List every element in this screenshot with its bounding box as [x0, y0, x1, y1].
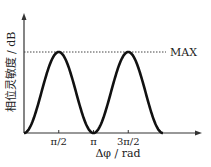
axes: π/2π3π/2	[22, 13, 203, 147]
sensitivity-curve	[24, 52, 163, 133]
y-axis-label: 相位灵敏度 / dB	[4, 32, 18, 113]
x-axis-arrow	[195, 131, 202, 136]
x-tick-label: 3π/2	[117, 136, 140, 147]
max-label: MAX	[170, 46, 197, 59]
y-axis-arrow	[22, 13, 27, 20]
x-axis-label: Δφ / rad	[95, 147, 140, 160]
x-tick-label: π/2	[51, 136, 67, 147]
marks	[24, 52, 166, 133]
x-tick-label: π	[90, 136, 97, 147]
chart: π/2π3π/2 相位灵敏度 / dB Δφ / rad MAX	[0, 0, 211, 167]
